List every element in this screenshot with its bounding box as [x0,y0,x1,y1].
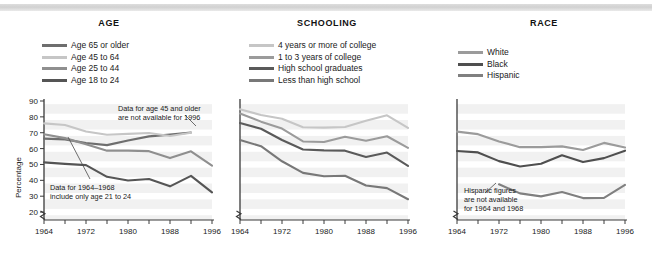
legend-label: 4 years or more of college [278,40,376,52]
panel-title-age: AGE [0,18,218,28]
y-tick-label: 40 [29,176,38,185]
legend-label: Less than high school [278,75,360,87]
x-tick-label: 1972 [490,227,508,236]
note-hispanic-unavailable: Hispanic figures are not available for 1… [464,186,523,214]
y-axis-label: Percentage [14,157,23,198]
panel-title-schooling: SCHOOLING [218,18,436,28]
legend-item: Age 65 or older [42,40,129,52]
legend-swatch-white [458,51,483,54]
x-tick-label: 1964 [448,227,466,236]
legend-swatch-age-18-to-24 [42,79,67,82]
legend-item: Age 18 to 24 [42,75,129,87]
legend-age: Age 65 or older Age 45 to 64 Age 25 to 4… [42,40,129,86]
legend-swatch-4-years-or-more-of-college [249,44,274,47]
legend-swatch-less-than-high-school [249,79,274,82]
legend-item: Age 25 to 44 [42,63,129,75]
legend-item: Age 45 to 64 [42,52,129,64]
chart-figure: AGE Age 65 or older Age 45 to 64 Age 25 … [0,0,652,261]
y-tick-label: 70 [29,129,38,138]
x-tick-label: 1964 [231,227,249,236]
legend-label: High school graduates [278,63,363,75]
x-tick-label: 1996 [616,227,634,236]
panel-age: AGE Age 65 or older Age 45 to 64 Age 25 … [0,0,218,261]
legend-label: Hispanic [487,70,520,82]
panel-title-race: RACE [436,18,652,28]
gridline-band [457,114,625,120]
gridline-band [240,161,408,167]
x-tick-label: 1980 [315,227,333,236]
y-tick-label: 90 [29,97,38,106]
legend-swatch-black [458,63,483,66]
chart-schooling: 19641972198019881996 [240,101,408,220]
legend-item: 1 to 3 years of college [249,52,376,64]
panel-schooling: SCHOOLING 4 years or more of college 1 t… [218,0,436,261]
x-tick-label: 1996 [399,227,417,236]
y-tick-label: 20 [29,208,38,217]
y-tick-label: 60 [29,145,38,154]
legend-label: Age 65 or older [71,40,129,52]
legend-item: White [458,47,520,59]
legend-swatch-age-65-or-older [42,44,67,47]
plot-area-schooling: 19641972198019881996 [240,101,408,220]
legend-item: Black [458,59,520,71]
legend-label: White [487,47,509,59]
legend-label: Age 18 to 24 [71,75,119,87]
legend-swatch-hispanic [458,74,483,77]
legend-label: Age 45 to 64 [71,52,119,64]
gridline-band [240,98,408,104]
gridline-band [240,193,408,199]
x-tick-label: 1980 [119,227,137,236]
gridline-band [240,209,408,215]
x-tick-label: 1972 [77,227,95,236]
x-tick-label: 1988 [161,227,179,236]
gridline-band [457,98,625,104]
legend-item: 4 years or more of college [249,40,376,52]
x-tick-label: 1972 [273,227,291,236]
note-age-1964-1968: Data for 1964–1968 include only age 21 t… [50,183,131,201]
gridline-band [240,177,408,183]
legend-swatch-age-45-to-64 [42,56,67,59]
y-tick-label: 50 [29,160,38,169]
legend-race: White Black Hispanic [458,47,520,82]
legend-item: Hispanic [458,70,520,82]
legend-swatch-age-25-to-44 [42,67,67,70]
gridline-band [44,209,212,215]
x-tick-label: 1964 [35,227,53,236]
legend-label: 1 to 3 years of college [278,52,361,64]
x-tick-label: 1980 [532,227,550,236]
legend-item: Less than high school [249,75,376,87]
x-tick-label: 1988 [357,227,375,236]
legend-item: High school graduates [249,63,376,75]
y-tick-label: 30 [29,192,38,201]
legend-schooling: 4 years or more of college 1 to 3 years … [249,40,376,86]
legend-swatch-high-school-graduates [249,67,274,70]
legend-label: Age 25 to 44 [71,63,119,75]
legend-swatch-1-to-3-years-of-college [249,56,274,59]
panel-race: RACE White Black Hispanic 19641972198019… [436,0,652,261]
x-tick-label: 1988 [574,227,592,236]
y-tick-label: 80 [29,113,38,122]
gridline-band [457,177,625,183]
note-age-45-unavailable: Data for age 45 and older are not availa… [118,104,201,122]
legend-label: Black [487,59,508,71]
